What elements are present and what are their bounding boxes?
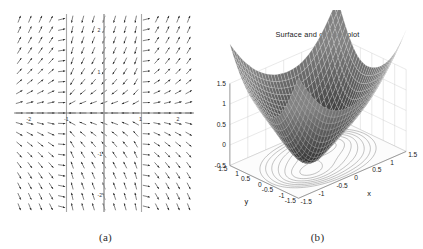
svg-text:0: 0: [354, 174, 358, 181]
svg-text:0.5: 0.5: [241, 175, 250, 182]
svg-text:2: 2: [177, 116, 180, 122]
phase-portrait-axes: [14, 14, 194, 212]
surface-contour-plot: -0.500.511.51.510.50-0.5-1-1.5-1.5-1-0.5…: [214, 10, 423, 215]
svg-text:-1: -1: [318, 190, 324, 197]
svg-text:0.5: 0.5: [372, 166, 381, 173]
svg-text:x: x: [367, 189, 371, 198]
svg-text:-1: -1: [98, 151, 103, 157]
svg-text:1: 1: [98, 69, 101, 75]
two-panel-figure: -2-112-2-112 (a) Surface and contour plo…: [0, 0, 423, 249]
phase-portrait-plot: -2-112-2-112: [14, 14, 194, 212]
svg-text:-1: -1: [64, 116, 69, 122]
surface-contour-svg: -0.500.511.51.510.50-0.5-1-1.5-1.5-1-0.5…: [214, 10, 423, 215]
svg-text:0.5: 0.5: [217, 121, 226, 128]
svg-text:1.5: 1.5: [218, 165, 227, 172]
panel-a: -2-112-2-112 (a): [0, 0, 211, 249]
svg-text:-2: -2: [98, 192, 103, 198]
svg-text:1: 1: [222, 100, 226, 107]
svg-text:1: 1: [139, 116, 142, 122]
svg-text:2: 2: [98, 27, 101, 33]
svg-text:-0.5: -0.5: [262, 186, 274, 193]
svg-text:1: 1: [235, 170, 239, 177]
svg-text:y: y: [244, 197, 248, 206]
svg-text:-1.5: -1.5: [301, 198, 313, 205]
caption-b: (b): [212, 231, 423, 243]
svg-text:1.5: 1.5: [217, 80, 226, 87]
svg-text:1: 1: [390, 159, 394, 166]
caption-a: (a): [0, 231, 211, 243]
svg-text:0: 0: [222, 141, 226, 148]
svg-text:1.5: 1.5: [408, 151, 417, 158]
svg-text:-2: -2: [27, 116, 32, 122]
phase-portrait-svg: -2-112-2-112: [14, 14, 194, 212]
svg-text:-0.5: -0.5: [336, 182, 348, 189]
panel-b: Surface and contour plot -0.500.511.51.5…: [212, 0, 423, 249]
svg-text:-1.5: -1.5: [285, 197, 297, 204]
